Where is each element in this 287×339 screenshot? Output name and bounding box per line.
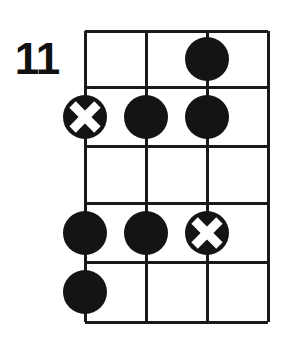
- fret-lines-group: [85, 31, 268, 322]
- marker-circle-filled: [63, 270, 107, 314]
- marker-circle-filled: [63, 211, 107, 255]
- starting-fret-label: 11: [8, 31, 66, 87]
- marker-fret2-string3: [185, 95, 229, 139]
- marker-fret2-string1: [63, 95, 107, 139]
- marker-fret5-string1: [63, 270, 107, 314]
- marker-fret4-string2: [124, 211, 168, 255]
- marker-circle-filled: [185, 95, 229, 139]
- chord-diagram-screenshot: 11: [0, 0, 287, 339]
- marker-circle-filled: [124, 211, 168, 255]
- marker-fret2-string2: [124, 95, 168, 139]
- marker-fret4-string3: [185, 211, 229, 255]
- marker-fret4-string1: [63, 211, 107, 255]
- marker-fret1-string3: [185, 37, 229, 81]
- marker-circle-filled: [185, 37, 229, 81]
- marker-circle-filled: [124, 95, 168, 139]
- string-lines-group: [85, 31, 268, 322]
